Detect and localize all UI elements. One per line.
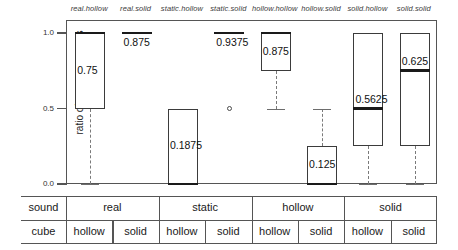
table-header-cube: cube (21, 220, 66, 242)
table-row-sound: soundrealstatichollowsolid (21, 196, 437, 220)
y-tick-mark-0.5 (57, 108, 67, 109)
table-cell-cube-4: hollow (252, 220, 298, 242)
whisker-lower (415, 146, 416, 184)
boxplot-figure: real.hollowreal.solidstatic.hollowstatic… (0, 0, 458, 250)
y-tick-mark-1.0 (57, 32, 67, 33)
table-divider-group-3 (344, 196, 345, 243)
y-tick-label-0.5: 0.5 (43, 104, 54, 113)
table-cell-cube-3: solid (205, 220, 251, 242)
condition-table: soundrealstatichollowsolid cubehollowsol… (21, 196, 437, 244)
table-cell-cube-2: hollow (159, 220, 205, 242)
table-rule-top (21, 196, 437, 197)
table-cell-cube-1: solid (112, 220, 158, 242)
table-row-cube: cubehollowsolidhollowsolidhollowsolidhol… (21, 220, 437, 244)
table-divider-sub-1 (205, 221, 206, 243)
table-cell-sound-static: static (159, 196, 252, 218)
table-divider-right (436, 196, 437, 243)
table-cell-cube-6: hollow (344, 220, 390, 242)
table-cell-sound-hollow: hollow (252, 196, 345, 218)
plot-area: ratio of correct answers 1.00.50.0 0.750… (66, 20, 437, 184)
boxplot-solid-solid: 0.625 (67, 21, 438, 185)
box-iqr (400, 33, 430, 146)
condition-label-solid-solid: solid.solid (380, 4, 448, 13)
table-divider-label (66, 196, 67, 243)
table-cell-cube-0: hollow (66, 220, 112, 242)
table-cell-cube-7: solid (391, 220, 437, 242)
table-header-sound: sound (21, 196, 66, 218)
median-line (400, 69, 430, 72)
value-label-solid-solid: 0.625 (402, 55, 428, 67)
table-divider-sub-3 (391, 221, 392, 243)
table-cell-sound-real: real (66, 196, 159, 218)
table-cell-cube-5: solid (298, 220, 344, 242)
table-divider-sub-2 (298, 221, 299, 243)
table-rule-middle (21, 220, 437, 221)
table-divider-group-1 (159, 196, 160, 243)
table-rule-bottom (21, 243, 437, 244)
y-tick-label-1.0: 1.0 (43, 28, 54, 37)
whisker-cap-lower (406, 184, 424, 185)
y-tick-label-0.0: 0.0 (43, 179, 54, 188)
table-divider-group-2 (252, 196, 253, 243)
y-tick-mark-0.0 (57, 183, 67, 184)
table-cell-sound-solid: solid (344, 196, 437, 218)
table-divider-sub-0 (112, 221, 113, 243)
